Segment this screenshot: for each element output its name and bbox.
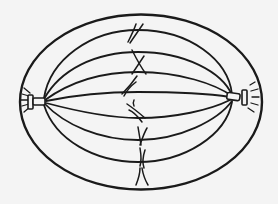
chromosome-5 — [138, 127, 147, 145]
chromosome-1 — [128, 24, 143, 43]
chromosome-7 — [136, 168, 148, 185]
diagram-canvas — [0, 0, 278, 204]
chromosome-2 — [132, 50, 146, 74]
spindle-fibers — [44, 30, 232, 162]
mitosis-diagram: Mitotic spindle at metaphase — [0, 0, 278, 204]
astral-rays-right — [248, 82, 259, 112]
left-centriole-pair — [28, 95, 45, 109]
chromosome-6 — [140, 148, 145, 168]
